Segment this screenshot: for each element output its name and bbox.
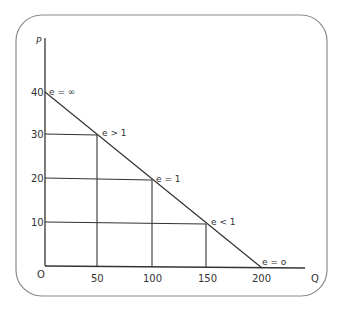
annotation-e-equal-1: e = 1 bbox=[156, 174, 181, 184]
origin-label: O bbox=[37, 269, 45, 280]
y-axis-label: P bbox=[36, 36, 42, 46]
annotation-e-greater-1: e > 1 bbox=[102, 128, 127, 138]
elasticity-diagram: P Q O 40 30 20 10 50 100 150 200 e = ∞ e… bbox=[0, 0, 341, 309]
x-tick-100: 100 bbox=[143, 273, 162, 284]
x-tick-50: 50 bbox=[91, 273, 104, 284]
x-axis-label: Q bbox=[311, 273, 319, 284]
y-tick-30: 30 bbox=[31, 129, 44, 140]
frame-border bbox=[16, 15, 327, 296]
annotation-e-infinite: e = ∞ bbox=[49, 87, 75, 97]
y-tick-10: 10 bbox=[31, 217, 44, 228]
x-tick-150: 150 bbox=[198, 273, 217, 284]
y-tick-20: 20 bbox=[31, 173, 44, 184]
y-tick-40: 40 bbox=[31, 87, 44, 98]
annotation-e-less-1: e < 1 bbox=[211, 217, 236, 227]
x-tick-200: 200 bbox=[252, 273, 271, 284]
annotation-e-zero: e = o bbox=[262, 257, 287, 267]
